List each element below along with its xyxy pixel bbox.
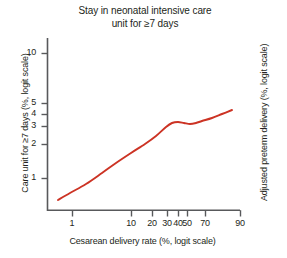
x-tick-label: 10	[121, 218, 141, 228]
y-axis-label-right: Adjusted preterm delivery (%, logit scal…	[259, 49, 269, 201]
chart-figure: Stay in neonatal intensive care unit for…	[0, 0, 287, 258]
data-series-line	[58, 110, 232, 200]
x-tick-label: 1	[62, 218, 82, 228]
x-tick-label: 90	[230, 218, 250, 228]
x-tick-label: 50	[177, 218, 197, 228]
x-tick-label: 70	[195, 218, 215, 228]
y-axis-ticks	[42, 54, 48, 179]
x-axis-ticks	[73, 210, 241, 216]
x-axis-label: Cesarean delivery rate (%, logit scale)	[40, 236, 245, 246]
y-axis-label-left: Care unit for ≥7 days (%, logit scale)	[20, 47, 30, 199]
